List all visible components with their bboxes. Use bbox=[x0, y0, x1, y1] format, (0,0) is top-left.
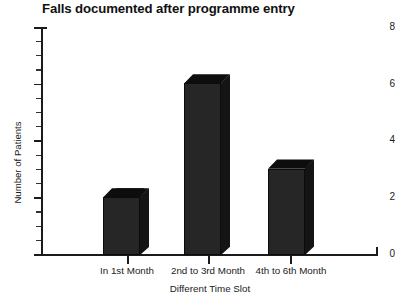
y-tick-minor bbox=[36, 112, 41, 113]
y-axis-top-cap bbox=[41, 27, 47, 29]
x-tick-mark bbox=[127, 256, 129, 264]
bar-front-face bbox=[268, 169, 305, 255]
y-tick-mark bbox=[34, 140, 41, 142]
y-axis-tick-label: 8 bbox=[373, 22, 395, 32]
x-category-label: 4th to 6th Month bbox=[229, 265, 353, 276]
y-tick-minor bbox=[36, 226, 41, 227]
bar-side-face bbox=[140, 188, 149, 255]
y-tick-minor bbox=[36, 126, 41, 127]
x-axis-title: Different Time Slot bbox=[150, 283, 270, 294]
y-tick-minor bbox=[36, 169, 41, 170]
bar-side-face bbox=[221, 74, 230, 255]
y-axis-title: Number of Patients bbox=[12, 103, 23, 223]
y-axis-tick-label: 6 bbox=[373, 79, 395, 89]
bar-side-face bbox=[305, 159, 314, 255]
plot-area: 0 2 4 6 8 Number of Patients In 1st Mont bbox=[0, 0, 395, 303]
y-tick-minor bbox=[36, 98, 41, 99]
y-tick-minor bbox=[36, 211, 41, 212]
y-tick-mark bbox=[34, 84, 41, 86]
x-tick-mark bbox=[208, 256, 210, 264]
y-tick-minor bbox=[36, 55, 41, 56]
y-tick-minor bbox=[36, 69, 41, 70]
y-tick-mark bbox=[34, 254, 41, 256]
y-axis-tick-label: 0 bbox=[373, 249, 395, 259]
y-axis-tick-label: 2 bbox=[373, 192, 395, 202]
y-tick-minor bbox=[36, 240, 41, 241]
bar-front-face bbox=[184, 83, 221, 255]
x-tick-mark bbox=[290, 256, 292, 264]
y-axis-tick-label: 4 bbox=[373, 135, 395, 145]
bar-front-face bbox=[103, 197, 140, 255]
bar-chart: Falls documented after programme entry 0… bbox=[0, 0, 395, 303]
y-tick-minor bbox=[36, 155, 41, 156]
y-tick-mark bbox=[34, 27, 41, 29]
y-tick-minor bbox=[36, 183, 41, 184]
y-tick-minor bbox=[36, 41, 41, 42]
y-axis-line bbox=[41, 27, 43, 256]
y-tick-mark bbox=[34, 197, 41, 199]
